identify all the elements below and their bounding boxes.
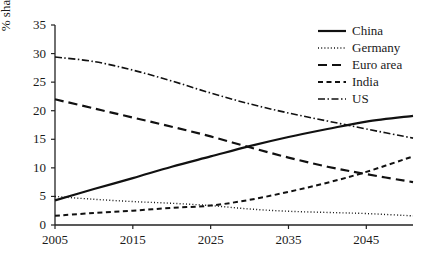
- series-line-china: [55, 116, 413, 201]
- y-tick-label: 30: [22, 46, 46, 62]
- legend-label: India: [352, 74, 379, 90]
- legend-line-swatch: [318, 26, 346, 36]
- y-tick-label: 25: [22, 74, 46, 90]
- y-axis-label: % share of world GDP: [0, 0, 14, 52]
- chart-figure: % share of world GDP 05101520253035 2005…: [0, 0, 423, 260]
- series-line-india: [55, 156, 413, 215]
- legend-line-swatch: [318, 77, 346, 87]
- legend-line-swatch: [318, 94, 346, 104]
- y-tick-label: 20: [22, 103, 46, 119]
- x-tick-label: 2005: [32, 232, 78, 248]
- legend-label: US: [352, 91, 369, 107]
- legend-line-swatch: [318, 60, 346, 70]
- chart-legend: ChinaGermanyEuro areaIndiaUS: [318, 22, 402, 108]
- y-tick-label: 5: [22, 188, 46, 204]
- legend-item-germany[interactable]: Germany: [318, 39, 402, 56]
- legend-item-us[interactable]: US: [318, 91, 402, 108]
- legend-label: Germany: [352, 40, 400, 56]
- series-line-euro-area: [55, 99, 413, 182]
- legend-label: China: [352, 23, 383, 39]
- x-tick-label: 2035: [265, 232, 311, 248]
- legend-item-china[interactable]: China: [318, 22, 402, 39]
- x-tick-label: 2045: [343, 232, 389, 248]
- y-tick-label: 0: [22, 217, 46, 233]
- y-tick-label: 35: [22, 17, 46, 33]
- y-tick-label: 15: [22, 131, 46, 147]
- legend-item-euro-area[interactable]: Euro area: [318, 56, 402, 73]
- x-tick-label: 2025: [188, 232, 234, 248]
- y-tick-label: 10: [22, 160, 46, 176]
- legend-line-swatch: [318, 43, 346, 53]
- legend-item-india[interactable]: India: [318, 74, 402, 91]
- legend-label: Euro area: [352, 57, 402, 73]
- x-tick-label: 2015: [110, 232, 156, 248]
